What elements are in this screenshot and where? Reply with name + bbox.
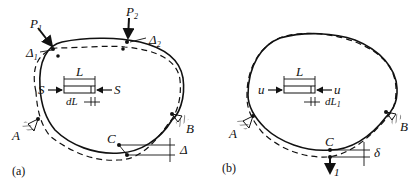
figure-b: L u u dL1 A B C 1 δ (b) — [222, 33, 408, 178]
label-point-c-b: C — [325, 134, 334, 149]
label-support-a: A — [11, 128, 20, 143]
label-force-s-left: S — [38, 82, 45, 97]
label-support-b: B — [186, 121, 194, 136]
label-p1: P1 — [29, 16, 42, 33]
label-p2: P2 — [125, 4, 138, 21]
label-dl1-b: dL1 — [325, 95, 341, 109]
label-delta-c: Δ — [179, 142, 188, 157]
label-force-s-right: S — [114, 82, 121, 97]
caption-b: (b) — [222, 161, 236, 175]
label-delta1: Δ1 — [25, 45, 38, 62]
label-unit-load: 1 — [334, 166, 340, 178]
label-support-a-b: A — [228, 126, 237, 141]
label-support-b-b: B — [400, 119, 408, 134]
label-dl-a: dL — [66, 95, 78, 107]
label-length-a: L — [75, 64, 83, 79]
bar-element-a — [64, 86, 95, 93]
caption-a: (a) — [12, 164, 25, 178]
label-delta2: Δ2 — [148, 32, 161, 49]
figure-a: P1 Δ1 P2 Δ2 L S S dL A B — [11, 4, 194, 178]
ring-deformed-b — [247, 33, 396, 157]
label-point-c-a: C — [107, 131, 116, 146]
bar-element-b — [284, 86, 315, 93]
virtual-work-diagram: P1 Δ1 P2 Δ2 L S S dL A B — [0, 0, 412, 186]
label-force-u-left: u — [258, 82, 265, 97]
label-delta-small: δ — [374, 145, 381, 160]
label-length-b: L — [295, 64, 303, 79]
ring-original-b — [248, 34, 397, 151]
load-arrow-p2 — [128, 18, 129, 38]
